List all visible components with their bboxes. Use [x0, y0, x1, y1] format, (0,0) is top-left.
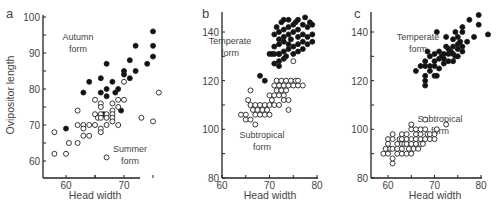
panel-c: 80100120140607080cHead widthTemperatefor…	[351, 6, 490, 201]
data-point	[286, 32, 291, 37]
data-point	[93, 123, 98, 128]
data-point	[116, 87, 121, 92]
data-point	[296, 27, 301, 32]
data-point	[296, 49, 301, 54]
panel-b: 80100120140607080bHead widthTemperatefor…	[202, 6, 323, 201]
data-point	[281, 98, 286, 103]
data-point	[127, 76, 132, 81]
data-point	[286, 47, 291, 52]
data-point	[386, 151, 391, 156]
data-point	[425, 49, 430, 54]
data-point	[284, 78, 289, 83]
data-point	[413, 137, 418, 142]
data-point	[52, 130, 57, 135]
annotation-label: form	[121, 156, 139, 166]
data-point	[444, 34, 449, 39]
data-point	[75, 108, 80, 113]
data-point	[64, 126, 69, 131]
data-point	[116, 105, 121, 110]
data-point	[279, 78, 284, 83]
panel-letter: b	[202, 6, 209, 21]
data-point	[277, 64, 282, 69]
data-point	[305, 42, 310, 47]
data-point	[258, 112, 263, 117]
data-point	[98, 90, 103, 95]
data-point	[288, 78, 293, 83]
data-point	[110, 119, 115, 124]
data-point	[272, 103, 277, 108]
data-point	[399, 132, 404, 137]
data-point	[269, 51, 274, 56]
data-point	[52, 151, 57, 156]
annotation-label: Summer	[113, 144, 147, 154]
data-point	[87, 133, 92, 138]
data-point	[455, 34, 460, 39]
data-point	[291, 30, 296, 35]
data-point	[465, 39, 470, 44]
data-point	[277, 42, 282, 47]
data-point	[460, 30, 465, 35]
data-point	[243, 112, 248, 117]
data-point	[75, 141, 80, 146]
data-point	[296, 34, 301, 39]
y-tick-label: 80	[29, 84, 41, 95]
data-point	[423, 83, 428, 88]
data-point	[277, 59, 282, 64]
data-point	[404, 132, 409, 137]
series-subtropical-form	[381, 117, 449, 166]
data-point	[98, 115, 103, 120]
data-point	[104, 87, 109, 92]
data-point	[93, 97, 98, 102]
data-point	[151, 119, 156, 124]
data-point	[116, 123, 121, 128]
data-point	[122, 97, 127, 102]
annotation-label: Temperate	[209, 36, 252, 46]
data-point	[413, 132, 418, 137]
data-point	[460, 49, 465, 54]
data-point	[451, 37, 456, 42]
data-point	[451, 44, 456, 49]
x-tick-label: 60	[216, 180, 228, 191]
data-point	[434, 127, 439, 132]
data-point	[305, 34, 310, 39]
data-point	[423, 59, 428, 64]
data-point	[286, 25, 291, 30]
data-point	[310, 39, 315, 44]
data-point	[248, 117, 253, 122]
data-point	[423, 117, 428, 122]
data-point	[265, 107, 270, 112]
data-point	[300, 39, 305, 44]
series-temperate-form	[413, 13, 490, 89]
y-tick-label: 70	[29, 120, 41, 131]
y-tick-label: 120	[351, 76, 368, 87]
y-tick-label: 100	[202, 124, 219, 135]
data-point	[139, 115, 144, 120]
data-point	[390, 161, 395, 166]
data-point	[291, 59, 296, 64]
x-axis-label: Head width	[244, 189, 297, 201]
annotation-label: form	[69, 44, 87, 54]
data-point	[246, 98, 251, 103]
data-point	[390, 132, 395, 137]
data-point	[250, 107, 255, 112]
data-point	[104, 123, 109, 128]
series-temperate-form	[258, 15, 315, 83]
data-point	[455, 54, 460, 59]
data-point	[64, 151, 69, 156]
data-point	[420, 141, 425, 146]
series-subtropical-form	[239, 59, 306, 127]
data-point	[291, 83, 296, 88]
data-point	[286, 107, 291, 112]
data-point	[274, 88, 279, 93]
y-tick-label: 80	[357, 173, 369, 184]
data-point	[467, 17, 472, 22]
data-point	[279, 88, 284, 93]
data-point	[446, 59, 451, 64]
data-point	[127, 58, 132, 63]
data-point	[87, 79, 92, 84]
data-point	[274, 25, 279, 30]
data-point	[269, 98, 274, 103]
data-point	[145, 61, 150, 66]
data-point	[267, 103, 272, 108]
data-point	[260, 107, 265, 112]
